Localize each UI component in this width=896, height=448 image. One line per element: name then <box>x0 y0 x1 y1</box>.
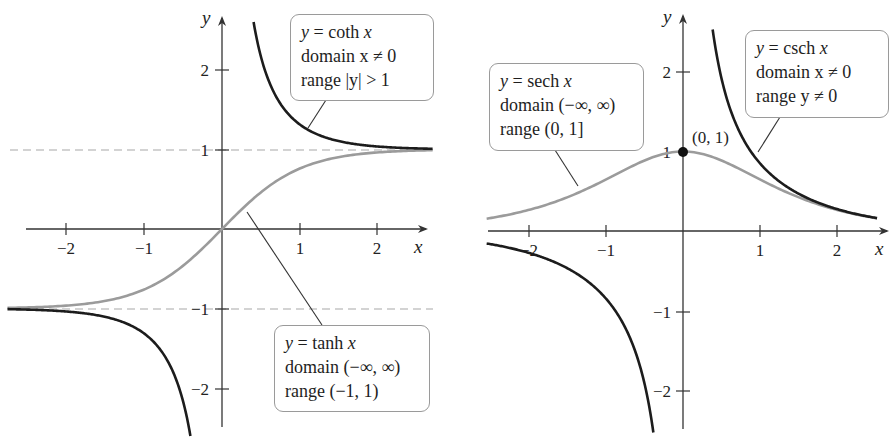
coth-callout: y = coth x domain x ≠ 0 range |y| > 1 <box>290 14 434 101</box>
point-0-1-marker <box>678 147 688 157</box>
coth-domain: domain x ≠ 0 <box>301 44 425 68</box>
tanh-range: range (−1, 1) <box>285 379 421 403</box>
x-axis-label: x <box>413 236 423 257</box>
coth-callout-leader <box>308 100 326 128</box>
sech-domain: domain (−∞, ∞) <box>500 93 635 117</box>
x-axis-label: x <box>874 238 884 259</box>
csch-domain: domain x ≠ 0 <box>756 60 880 84</box>
y-tick-label: 2 <box>201 61 210 80</box>
tanh-equation: y = tanh x <box>285 331 421 355</box>
sech-callout-leader <box>555 150 578 186</box>
y-tick-label: −1 <box>653 303 671 322</box>
y-axis-label: y <box>661 6 672 27</box>
coth-curve-negative-branch <box>8 309 191 436</box>
coth-equation: y = coth x <box>301 20 425 44</box>
sech-range: range (0, 1] <box>500 117 635 141</box>
tanh-callout: y = tanh x domain (−∞, ∞) range (−1, 1) <box>274 325 430 412</box>
x-tick-label: 1 <box>756 241 765 260</box>
y-tick-label: 2 <box>663 63 672 82</box>
csch-callout-leader <box>758 117 780 152</box>
tanh-domain: domain (−∞, ∞) <box>285 355 421 379</box>
csch-equation: y = csch x <box>756 36 880 60</box>
coth-range: range |y| > 1 <box>301 68 425 92</box>
sech-curve <box>487 152 877 219</box>
x-tick-label: 2 <box>373 239 382 258</box>
csch-range: range y ≠ 0 <box>756 84 880 108</box>
y-tick-label: −2 <box>191 380 209 399</box>
y-axis-label: y <box>200 7 211 28</box>
sech-callout: y = sech x domain (−∞, ∞) range (0, 1] <box>489 63 644 151</box>
y-tick-label: −1 <box>191 300 209 319</box>
x-tick-label: 2 <box>833 241 842 260</box>
csch-callout: y = csch x domain x ≠ 0 range y ≠ 0 <box>745 30 889 118</box>
y-tick-label: −2 <box>653 382 671 401</box>
x-tick-label: −2 <box>57 239 75 258</box>
x-tick-label: −1 <box>135 239 153 258</box>
sech-equation: y = sech x <box>500 69 635 93</box>
csch-curve-negative-branch <box>487 243 654 432</box>
x-tick-label: −1 <box>597 241 615 260</box>
point-0-1-label: (0, 1) <box>692 128 729 148</box>
x-tick-label: 1 <box>296 239 305 258</box>
y-tick-label: 1 <box>201 141 210 160</box>
